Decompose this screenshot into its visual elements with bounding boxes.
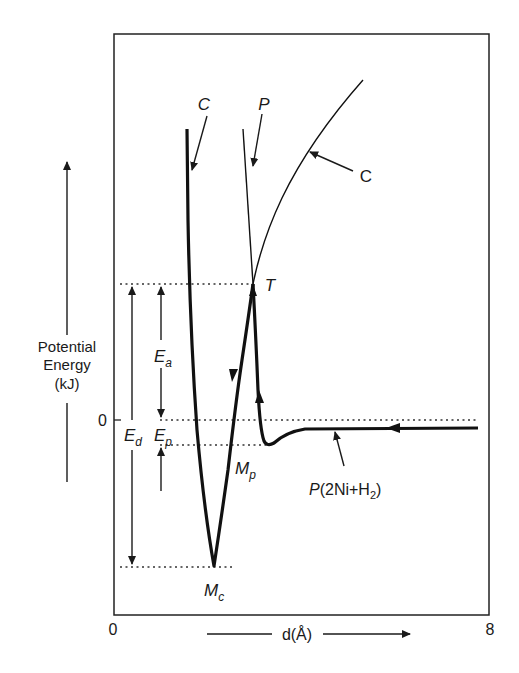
pointer-p — [253, 114, 262, 166]
label-mp: Mp — [235, 459, 256, 482]
label-ep: Ep — [154, 426, 172, 449]
curve-c-chemisorption — [187, 129, 253, 566]
pointer-p-species — [335, 432, 344, 466]
curve-p-upper — [243, 129, 253, 284]
label-ed: Ed — [124, 426, 142, 449]
label-point-t: T — [265, 276, 277, 295]
label-curve-c-right: C — [360, 167, 372, 186]
label-mc: Mc — [204, 581, 224, 604]
potential-energy-diagram: C P C T Ea Ed Ep Mp Mc P(2Ni+H2) Potenti… — [0, 0, 519, 673]
y-tick-zero: 0 — [98, 412, 107, 429]
x-tick-zero: 0 — [109, 621, 118, 638]
y-axis-label-line2: Energy — [43, 356, 91, 373]
arrow-up-p-icon — [255, 390, 264, 403]
arrow-left-p-icon — [386, 423, 400, 433]
label-ea: Ea — [154, 347, 172, 370]
pointer-c-left — [192, 116, 207, 170]
label-curve-c-left: C — [198, 95, 211, 114]
reference-lines — [120, 284, 478, 567]
label-p-species: P(2Ni+H2) — [309, 481, 381, 501]
x-axis-label: d(Å) — [282, 625, 312, 643]
y-axis-label-line1: Potential — [38, 338, 96, 355]
label-curve-p: P — [258, 95, 270, 114]
arrow-up-t-icon — [249, 285, 257, 296]
plot-frame — [114, 34, 489, 615]
x-tick-max: 8 — [486, 621, 495, 638]
arrow-down-c-icon — [229, 369, 238, 382]
y-axis-label-line3: (kJ) — [55, 375, 80, 392]
pointer-c-right — [310, 152, 353, 171]
